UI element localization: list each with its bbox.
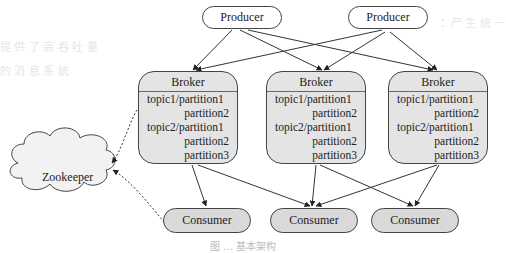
edge-producer2-broker2 [324, 32, 385, 70]
producer-label: Producer [220, 10, 263, 25]
broker-partition-line: partition2 [389, 134, 487, 148]
consumer-label: Consumer [182, 213, 231, 228]
broker-partition-line: partition2 [267, 134, 365, 148]
edge-broker1-zookeeper [112, 110, 137, 163]
broker-partition-line: topic2/partition1 [267, 120, 365, 134]
broker-partition-line: partition2 [139, 106, 237, 120]
consumer-node-2: Consumer [270, 208, 358, 233]
broker-partition-line: topic2/partition1 [139, 120, 237, 134]
broker-partition-line: partition3 [389, 148, 487, 162]
zookeeper-label: Zookeeper [42, 170, 93, 185]
consumer-label: Consumer [289, 213, 338, 228]
consumer-label: Consumer [390, 213, 439, 228]
edge-producer2-broker3 [390, 32, 437, 70]
broker-partition-line: partition2 [267, 106, 365, 120]
producer-node-1: Producer [202, 6, 282, 29]
figure-caption: 图 … 基本架构 [210, 238, 276, 253]
edge-broker2-consumer2 [312, 165, 316, 206]
broker-partition-line: topic2/partition1 [389, 120, 487, 134]
producer-label: Producer [366, 10, 409, 25]
producer-node-2: Producer [348, 6, 428, 29]
edge-producer2-broker1 [196, 30, 382, 70]
broker-partition-line: topic1/partition1 [267, 92, 365, 106]
broker-title: Broker [267, 72, 365, 92]
broker-partition-line: partition3 [139, 148, 237, 162]
broker-partition-line: topic1/partition1 [139, 92, 237, 106]
broker-node-2: Broker topic1/partition1 partition2 topi… [266, 71, 366, 164]
broker-title: Broker [389, 72, 487, 92]
consumer-node-1: Consumer [163, 208, 251, 233]
broker-node-1: Broker topic1/partition1 partition2 topi… [138, 71, 238, 164]
edge-consumer1-zookeeper [113, 170, 164, 222]
edge-producer1-broker2 [240, 30, 322, 70]
consumer-node-3: Consumer [371, 208, 459, 233]
edge-broker1-consumer2 [198, 165, 310, 206]
broker-partition-line: partition3 [267, 148, 365, 162]
broker-node-3: Broker topic1/partition1 partition2 topi… [388, 71, 488, 164]
broker-title: Broker [139, 72, 237, 92]
edge-producer1-broker3 [248, 30, 433, 70]
broker-partition-line: partition2 [139, 134, 237, 148]
broker-partition-line: topic1/partition1 [389, 92, 487, 106]
edge-broker1-consumer1 [192, 165, 206, 206]
broker-partition-line: partition2 [389, 106, 487, 120]
